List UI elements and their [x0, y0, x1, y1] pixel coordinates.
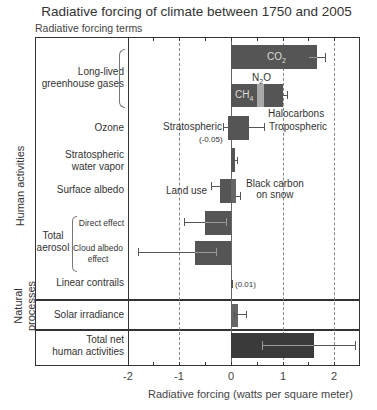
gridline-1 — [283, 38, 284, 365]
x-tick-label: 0 — [219, 370, 243, 382]
tick-bottom — [179, 362, 180, 366]
label-tropospheric: Tropospheric — [269, 121, 327, 132]
row-label-direct: Direct effect — [76, 218, 124, 229]
group-label-natural-1: Natural — [12, 276, 24, 336]
errorbar-total-inner — [262, 345, 314, 346]
tick-bottom — [257, 362, 258, 366]
row-label-albedo: Surface albedo — [40, 184, 124, 196]
errorbar-total — [314, 345, 355, 346]
row-label-swv-1: Stratospheric — [40, 149, 124, 161]
row-label-contrails: Linear contrails — [40, 277, 124, 289]
errorcap-cloud-inner — [216, 248, 217, 256]
tick-top — [231, 37, 232, 41]
errorcap-ozone-trop — [264, 123, 265, 131]
errorbar-halocarbons — [276, 95, 287, 96]
label-black-carbon-1: Black carbon — [246, 178, 304, 189]
row-label-ozone: Ozone — [40, 122, 124, 134]
tick-bottom — [205, 362, 206, 366]
errorbar-direct — [184, 222, 205, 223]
errorcap-swv — [237, 157, 238, 164]
gridline-2 — [334, 38, 335, 365]
row-label-total-1: Total net — [40, 334, 124, 346]
row-label-cloud: Cloud albedo effect — [72, 243, 124, 265]
errorcap-black-carbon — [240, 192, 241, 200]
row-label-swv: Stratospheric water vapor — [40, 149, 124, 173]
label-black-carbon: Black carbon on snow — [246, 178, 304, 200]
x-tick-label: 2 — [322, 370, 346, 382]
bar-albedo-black-carbon — [231, 179, 236, 203]
row-label-swv-2: water vapor — [40, 161, 124, 173]
row-label-aerosol-1: Total — [36, 230, 70, 242]
bar-aerosol-cloud — [195, 241, 231, 265]
row-label-llghg-2: greenhouse gases — [40, 78, 124, 90]
chart-subtitle: Radiative forcing terms — [35, 22, 142, 34]
label-black-carbon-2: on snow — [246, 189, 304, 200]
x-tick-label: -2 — [116, 370, 140, 382]
label-ch4: CH4 — [235, 89, 253, 102]
row-label-cloud-2: effect — [72, 254, 124, 265]
tick-bottom — [231, 362, 232, 366]
tick-top — [283, 37, 284, 41]
errorcap-co2 — [325, 53, 326, 62]
row-label-llghg-1: Long-lived — [40, 66, 124, 78]
bar-contrails — [231, 280, 233, 288]
errorcap-direct-inner — [226, 218, 227, 226]
errorbar-cloud-inner — [195, 252, 216, 253]
label-land-use: Land use — [166, 185, 207, 196]
row-label-total: Total net human activities — [40, 334, 124, 358]
separator-total — [35, 329, 360, 331]
errorbar-direct-inner — [205, 222, 227, 223]
errorcap-solar-low — [234, 311, 235, 318]
tick-top — [179, 37, 180, 41]
gridline-minus-1 — [179, 38, 180, 365]
errorbar-ozone-strat — [223, 127, 231, 128]
errorbar-ozone-trop — [244, 127, 265, 128]
row-label-aerosol-2: aerosol — [36, 242, 70, 254]
errorcap-halocarbons — [287, 91, 288, 99]
x-tick-label: -1 — [167, 370, 191, 382]
separator-natural — [35, 299, 360, 301]
label-stratospheric-value: (-0.05) — [199, 135, 223, 144]
row-label-total-2: human activities — [40, 346, 124, 358]
tick-bottom — [334, 362, 335, 366]
label-stratospheric: Stratospheric — [163, 121, 222, 132]
errorbar-land-use — [211, 186, 231, 187]
x-tick-label: 1 — [271, 370, 295, 382]
tick-top — [205, 37, 206, 41]
errorcap-direct — [184, 218, 185, 226]
bar-n2o — [257, 84, 264, 107]
group-label-human: Human activities — [14, 136, 26, 236]
label-contrails-value: (0.01) — [235, 280, 256, 289]
tick-bottom — [308, 362, 309, 366]
errorcap-cloud — [138, 248, 139, 256]
tick-top — [308, 37, 309, 41]
errorcap-total-high — [355, 341, 356, 350]
group-label-natural-2: processes — [25, 276, 37, 336]
tick-top — [257, 37, 258, 41]
errorcap-ozone-strat — [223, 123, 224, 131]
row-label-cloud-1: Cloud albedo — [72, 243, 124, 254]
errorcap-total-low — [262, 341, 263, 350]
bar-aerosol-direct — [205, 211, 231, 235]
errorcap-land-use — [211, 182, 212, 190]
tick-top — [334, 37, 335, 41]
row-label-solar: Solar irradiance — [40, 309, 124, 321]
errorbar-cloud — [138, 252, 195, 253]
bar-albedo-land-use — [220, 179, 231, 203]
tick-top — [153, 37, 154, 41]
label-co2: CO2 — [267, 51, 286, 64]
plot-left-border — [128, 37, 129, 366]
errorcap-solar-high — [246, 311, 247, 318]
errorbar-co2-inner — [309, 57, 317, 58]
chart-title: Radiative forcing of climate between 175… — [8, 4, 377, 19]
x-axis-label: Radiative forcing (watts per square mete… — [148, 388, 353, 400]
brace-llghg — [119, 49, 125, 108]
label-halocarbons: Halocarbons — [268, 108, 324, 119]
tick-bottom — [153, 362, 154, 366]
row-label-aerosol: Total aerosol — [36, 230, 70, 254]
row-label-llghg: Long-lived greenhouse gases — [40, 66, 124, 90]
tick-bottom — [283, 362, 284, 366]
